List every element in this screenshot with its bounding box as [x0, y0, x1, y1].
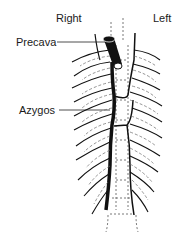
vein-diagram-svg [0, 0, 192, 237]
azygos-vessel [106, 62, 114, 210]
intercostal-veins [72, 50, 162, 214]
